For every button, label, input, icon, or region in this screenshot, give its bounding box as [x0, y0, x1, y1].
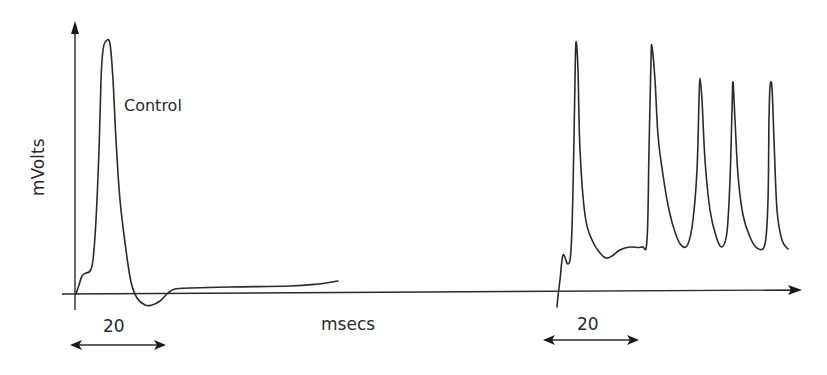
action-potential-figure: mVolts Control msecs 20 20: [0, 0, 827, 375]
x-axis-label: msecs: [321, 314, 375, 334]
scale-bar-right-label: 20: [577, 314, 599, 334]
axes: [62, 21, 802, 310]
y-axis-label: mVolts: [28, 138, 48, 196]
scale-bar-left-label: 20: [103, 316, 125, 336]
scale-bar-right: 20: [543, 314, 639, 345]
y-axis-arrow-icon: [71, 21, 79, 34]
control-trace: [76, 39, 338, 305]
scale-bar-left: 20: [70, 316, 166, 350]
control-label: Control: [124, 96, 182, 115]
repetitive-firing-trace: [557, 42, 788, 307]
